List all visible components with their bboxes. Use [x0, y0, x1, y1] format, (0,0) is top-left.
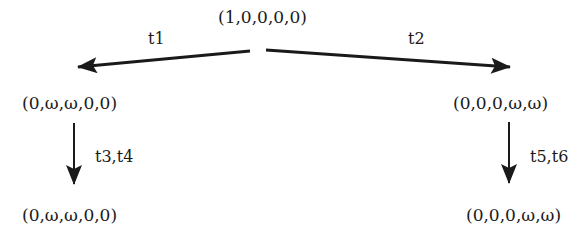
node-right1: (0,0,0,ω,ω) [453, 93, 548, 113]
edge-label-t5t6: t5,t6 [530, 148, 568, 166]
edge-label-t2: t2 [408, 30, 425, 48]
node-right2: (0,0,0,ω,ω) [466, 205, 561, 225]
edge-label-t1: t1 [148, 30, 165, 48]
node-left2: (0,ω,ω,0,0) [22, 205, 117, 225]
node-root: (1,0,0,0,0) [218, 7, 307, 27]
edge-t2-arrow [266, 50, 510, 67]
edge-t1-arrow [78, 51, 250, 67]
node-left1: (0,ω,ω,0,0) [22, 93, 117, 113]
edges-layer [0, 0, 581, 237]
edge-label-t3t4: t3,t4 [95, 148, 133, 166]
